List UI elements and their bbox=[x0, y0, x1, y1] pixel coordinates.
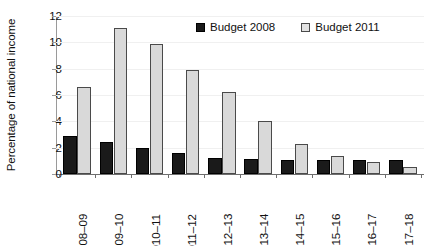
x-tick-label-text: 2009–10 bbox=[113, 214, 125, 246]
chart-legend: Budget 2008Budget 2011 bbox=[196, 21, 380, 33]
legend-item: Budget 2011 bbox=[301, 21, 379, 33]
x-tick-mark bbox=[240, 174, 241, 178]
legend-label: Budget 2011 bbox=[315, 21, 379, 33]
x-tick-mark bbox=[276, 174, 277, 178]
legend-item: Budget 2008 bbox=[196, 21, 275, 33]
x-tick-mark bbox=[385, 174, 386, 178]
x-tick-mark bbox=[349, 174, 350, 178]
y-tick-mark bbox=[52, 174, 56, 175]
x-tick-label-text: 2013–14 bbox=[258, 214, 270, 246]
bar bbox=[295, 144, 309, 174]
gridline bbox=[56, 95, 424, 96]
bar bbox=[258, 121, 272, 174]
y-axis-title: Percentage of national income bbox=[0, 0, 22, 190]
bar bbox=[389, 160, 403, 174]
bar bbox=[136, 148, 150, 174]
x-tick-label-text: 2016–17 bbox=[367, 214, 379, 246]
x-tick-label: 2017–18 bbox=[396, 178, 410, 242]
x-tick-label: 2009–10 bbox=[106, 178, 120, 242]
x-tick-label: 2016–17 bbox=[360, 178, 374, 242]
x-tick-label: 2015–16 bbox=[324, 178, 338, 242]
x-tick-label-text: 2014–15 bbox=[294, 214, 306, 246]
x-tick-mark bbox=[95, 174, 96, 178]
bar bbox=[244, 159, 258, 174]
x-tick-mark bbox=[168, 174, 169, 178]
bar-chart: Percentage of national income 024681012 … bbox=[0, 0, 430, 246]
bar bbox=[186, 70, 200, 174]
x-tick-label: 2012–13 bbox=[215, 178, 229, 242]
gridline bbox=[56, 16, 424, 17]
bar bbox=[353, 160, 367, 174]
bar bbox=[150, 44, 164, 174]
x-tick-label-text: 2015–16 bbox=[331, 214, 343, 246]
x-tick-mark bbox=[204, 174, 205, 178]
bar bbox=[63, 136, 77, 174]
bar bbox=[208, 158, 222, 174]
bar bbox=[331, 156, 345, 174]
x-tick-label-text: 2012–13 bbox=[222, 214, 234, 246]
x-tick-mark bbox=[131, 174, 132, 178]
x-tick-label: 2011–12 bbox=[179, 178, 193, 242]
x-tick-label: 2008–09 bbox=[70, 178, 84, 242]
x-tick-mark bbox=[59, 174, 60, 178]
legend-label: Budget 2008 bbox=[210, 21, 275, 33]
bar bbox=[100, 142, 114, 174]
y-axis-title-text: Percentage of national income bbox=[5, 19, 17, 171]
x-tick-label: 2013–14 bbox=[251, 178, 265, 242]
x-tick-mark bbox=[312, 174, 313, 178]
bar bbox=[281, 160, 295, 174]
x-tick-label-text: 2017–18 bbox=[403, 214, 415, 246]
bar bbox=[317, 160, 331, 174]
legend-swatch-icon bbox=[301, 23, 310, 32]
x-tick-label-text: 2011–12 bbox=[186, 214, 198, 246]
bar bbox=[403, 167, 417, 174]
bar bbox=[222, 92, 236, 174]
x-tick-label: 2014–15 bbox=[287, 178, 301, 242]
gridline bbox=[56, 42, 424, 43]
bar bbox=[172, 153, 186, 174]
x-tick-mark bbox=[421, 174, 422, 178]
legend-swatch-icon bbox=[196, 23, 205, 32]
x-tick-label-text: 2010–11 bbox=[150, 214, 162, 246]
gridline bbox=[56, 69, 424, 70]
bar bbox=[114, 28, 128, 174]
y-tick-label: 0 bbox=[28, 168, 62, 180]
bar bbox=[367, 162, 381, 174]
plot-area: 024681012 bbox=[56, 16, 424, 174]
gridline bbox=[56, 121, 424, 122]
x-tick-label: 2010–11 bbox=[143, 178, 157, 242]
x-tick-label-text: 2008–09 bbox=[77, 214, 89, 246]
bar bbox=[77, 87, 91, 174]
